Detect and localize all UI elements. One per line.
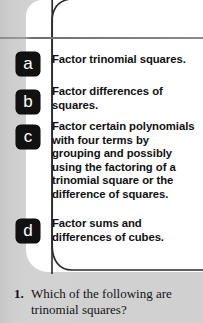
objective-text-b: Factor differences of squares. — [52, 85, 200, 112]
objective-text-c: Factor certain polynomials with four ter… — [52, 120, 200, 202]
objective-badge-b: b — [16, 90, 40, 114]
objective-badge-c: c — [16, 125, 40, 149]
objective-badge-d: d — [16, 219, 40, 243]
exercise-number: 1. — [14, 286, 24, 302]
objective-text-a: Factor trinomial squares. — [52, 53, 200, 67]
title-divider — [0, 37, 203, 39]
textbook-page: Objectives a Factor trinomial squares. b… — [0, 0, 203, 323]
exercise-question: Which of the following are trinomial squ… — [31, 286, 199, 318]
heading-area — [26, 0, 203, 42]
objective-badge-a: a — [16, 52, 40, 76]
objective-text-d: Factor sums and differences of cubes. — [52, 217, 200, 244]
